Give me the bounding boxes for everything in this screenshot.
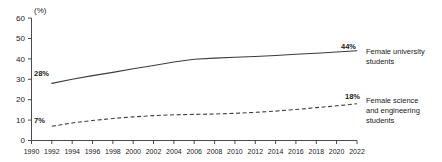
x-tick-label-1996: 1996 — [85, 148, 101, 155]
y-tick-label-30: 30 — [16, 75, 25, 84]
legend-entry-science-line3: students — [366, 116, 395, 125]
x-tick-label-2008: 2008 — [207, 148, 223, 155]
y-tick-label-50: 50 — [16, 34, 25, 43]
y-tick-labels: 0 10 20 30 40 50 60 — [16, 14, 25, 145]
legend-entry-university-line1: Female university — [366, 47, 425, 56]
y-tick-marks — [28, 18, 32, 140]
x-tick-label-2002: 2002 — [146, 148, 162, 155]
chart-canvas: 0 10 20 30 40 50 60 (%) — [0, 0, 442, 162]
legend-entry-science-line1: Female science — [366, 96, 419, 105]
annotation-end-university: 44% — [341, 42, 356, 51]
x-tick-label-2014: 2014 — [268, 148, 284, 155]
annotation-start-science: 7% — [34, 116, 45, 125]
y-tick-label-0: 0 — [21, 136, 26, 145]
y-tick-label-20: 20 — [16, 95, 25, 104]
x-tick-label-2010: 2010 — [227, 148, 243, 155]
x-tick-label-2022: 2022 — [349, 148, 365, 155]
x-tick-label-1994: 1994 — [64, 148, 80, 155]
legend-entry-science-line2: and engineering — [366, 106, 420, 115]
value-annotations: 28% 44% 7% 18% — [34, 42, 360, 125]
x-tick-marks — [32, 141, 358, 145]
x-tick-label-1998: 1998 — [105, 148, 121, 155]
line-chart: 0 10 20 30 40 50 60 (%) — [0, 0, 442, 162]
y-axis-unit-label: (%) — [34, 6, 47, 15]
series-line-female-science-engineering-students — [52, 104, 357, 126]
x-tick-label-2016: 2016 — [288, 148, 304, 155]
x-tick-label-1992: 1992 — [44, 148, 60, 155]
y-tick-label-10: 10 — [16, 116, 25, 125]
y-tick-label-40: 40 — [16, 55, 25, 64]
x-tick-label-2020: 2020 — [329, 148, 345, 155]
annotation-end-science: 18% — [345, 92, 360, 101]
x-tick-labels: 1990 1992 1994 1996 1998 2000 2002 2004 … — [24, 148, 365, 155]
y-tick-label-60: 60 — [16, 14, 25, 23]
x-tick-label-2004: 2004 — [166, 148, 182, 155]
annotation-start-university: 28% — [34, 69, 49, 78]
x-tick-label-2012: 2012 — [248, 148, 264, 155]
x-tick-label-1990: 1990 — [24, 148, 40, 155]
series-line-female-university-students — [52, 51, 357, 84]
legend-entry-university-line2: students — [366, 57, 395, 66]
legend: Female university students Female scienc… — [366, 47, 425, 125]
x-tick-label-2006: 2006 — [186, 148, 202, 155]
x-tick-label-2000: 2000 — [125, 148, 141, 155]
x-tick-label-2018: 2018 — [309, 148, 325, 155]
